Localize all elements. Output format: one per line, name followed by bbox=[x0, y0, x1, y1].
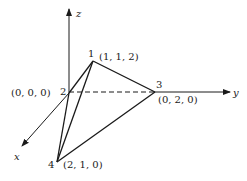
vertex-3-number: 3 bbox=[156, 79, 162, 90]
edge-3-4 bbox=[57, 92, 155, 162]
x-axis-label: x bbox=[14, 151, 20, 162]
edge-2-4 bbox=[57, 93, 69, 162]
vertex-3-coord: (0, 2, 0) bbox=[158, 94, 198, 105]
edge-1-2 bbox=[69, 61, 93, 93]
tetrahedron-diagram: z y x 1 (1, 1, 2) 2 (0, 0, 0) 3 (0, 2, 0… bbox=[0, 0, 247, 181]
vertex-2-number: 2 bbox=[60, 86, 66, 97]
y-axis-label: y bbox=[232, 87, 239, 98]
z-axis-label: z bbox=[75, 8, 82, 19]
x-axis bbox=[22, 93, 69, 146]
edge-1-3 bbox=[93, 61, 155, 92]
vertex-1-number: 1 bbox=[88, 48, 94, 59]
vertex-4-number: 4 bbox=[48, 159, 54, 170]
vertex-4-coord: (2, 1, 0) bbox=[63, 159, 103, 170]
vertex-1-coord: (1, 1, 2) bbox=[99, 51, 139, 62]
tetrahedron-edges bbox=[57, 61, 155, 162]
edge-1-4 bbox=[57, 61, 93, 162]
vertex-2-coord: (0, 0, 0) bbox=[11, 87, 51, 98]
